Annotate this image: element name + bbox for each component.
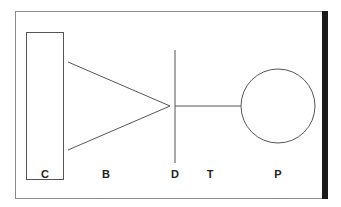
diagram-canvas: C B D T P <box>0 0 341 207</box>
label-c: C <box>41 168 49 180</box>
label-d: D <box>171 168 179 180</box>
right-edge-bar <box>322 11 328 199</box>
label-t: T <box>207 168 214 180</box>
label-p: P <box>274 168 281 180</box>
label-b: B <box>102 168 110 180</box>
